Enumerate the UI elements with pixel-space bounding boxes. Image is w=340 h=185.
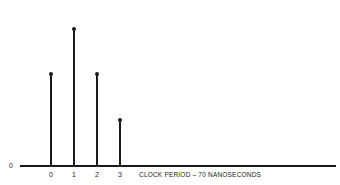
stem-1	[73, 29, 75, 165]
stem-marker-0	[49, 72, 53, 76]
x-tick-label-1: 1	[69, 171, 79, 178]
stem-chart: 0 0 1 2 3 CLOCK PERIOD – 70 NANOSECONDS	[0, 0, 340, 185]
stem-marker-2	[95, 72, 99, 76]
x-axis-baseline	[20, 165, 336, 167]
stem-marker-3	[118, 118, 122, 122]
y-zero-label: 0	[9, 162, 13, 169]
stem-3	[119, 120, 121, 165]
stem-marker-1	[72, 27, 76, 31]
stem-0	[50, 74, 52, 165]
x-axis-caption: CLOCK PERIOD – 70 NANOSECONDS	[139, 171, 261, 178]
x-tick-label-0: 0	[46, 171, 56, 178]
stem-2	[96, 74, 98, 165]
x-tick-label-3: 3	[115, 171, 125, 178]
x-tick-label-2: 2	[92, 171, 102, 178]
